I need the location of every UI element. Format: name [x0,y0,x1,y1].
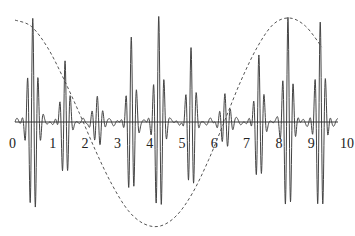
x-tick-label: 9 [308,136,315,151]
x-tick-label: 4 [146,136,153,151]
signal-waveform [15,16,338,207]
x-tick-label: 3 [114,136,121,151]
x-tick-label: 8 [275,136,282,151]
signal-chart: 012345678910 [0,0,355,236]
x-tick-label: 0 [9,136,16,151]
x-tick-labels: 012345678910 [9,136,354,151]
x-tick-label: 2 [82,136,89,151]
x-tick-label: 1 [49,136,56,151]
x-tick-label: 5 [179,136,186,151]
x-tick-label: 10 [340,136,354,151]
x-tick-label: 6 [211,136,218,151]
x-tick-label: 7 [243,136,250,151]
